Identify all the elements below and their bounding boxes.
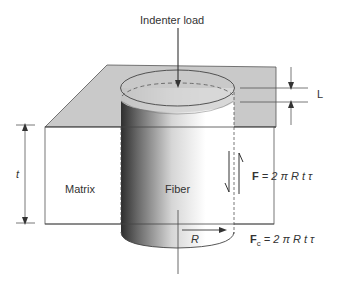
fiber-pushin-diagram: Indenter load L t Matrix Fiber R F = 2 π… bbox=[0, 0, 337, 287]
friction-force-equation: F = 2 π R t τ bbox=[252, 170, 312, 182]
radius-label: R bbox=[191, 233, 199, 245]
thickness-label: t bbox=[16, 168, 19, 180]
compressive-force-equation: Fc = 2 π R t τ bbox=[250, 233, 314, 248]
indenter-load-label: Indenter load bbox=[140, 14, 204, 26]
fiber-label: Fiber bbox=[165, 183, 190, 195]
matrix-label: Matrix bbox=[65, 183, 95, 195]
force-symbol: F bbox=[252, 170, 259, 182]
compressive-force-rhs: = 2 π R t τ bbox=[264, 233, 314, 245]
length-label: L bbox=[317, 88, 323, 100]
compressive-force-subscript: c bbox=[257, 239, 261, 248]
force-rhs: = 2 π R t τ bbox=[262, 170, 312, 182]
compressive-force-symbol: F bbox=[250, 233, 257, 245]
